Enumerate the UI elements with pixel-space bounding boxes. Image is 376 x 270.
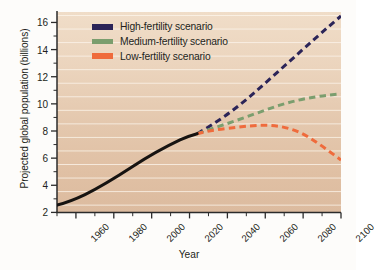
y-tick-8: 8: [26, 126, 48, 137]
y-tick-16: 16: [26, 17, 48, 28]
legend-swatch-medium-fertility: [92, 39, 113, 45]
chart-legend: High-fertility scenario Medium-fertility…: [92, 21, 228, 65]
y-tick-14: 14: [26, 44, 48, 55]
y-tick-4: 4: [26, 180, 48, 191]
legend-swatch-high-fertility: [92, 24, 113, 30]
x-axis-title: Year: [179, 249, 200, 260]
legend-label-medium-fertility: Medium-fertility scenario: [120, 36, 228, 47]
legend-label-low-fertility: Low-fertility scenario: [120, 51, 211, 62]
legend-item-medium-fertility: Medium-fertility scenario: [92, 36, 228, 48]
legend-swatch-low-fertility: [92, 53, 113, 59]
legend-item-high-fertility: High-fertility scenario: [92, 21, 228, 33]
y-tick-labels: 2 4 6 8 10 12 14 16: [24, 0, 48, 270]
legend-label-high-fertility: High-fertility scenario: [120, 21, 213, 32]
x-axis-title-wrap: Year: [0, 249, 356, 260]
y-tick-12: 12: [26, 71, 48, 82]
y-tick-2: 2: [26, 207, 48, 218]
x-tick-2100: 2100: [353, 221, 376, 244]
legend-item-low-fertility: Low-fertility scenario: [92, 50, 228, 62]
y-tick-10: 10: [26, 98, 48, 109]
y-tick-6: 6: [26, 153, 48, 164]
